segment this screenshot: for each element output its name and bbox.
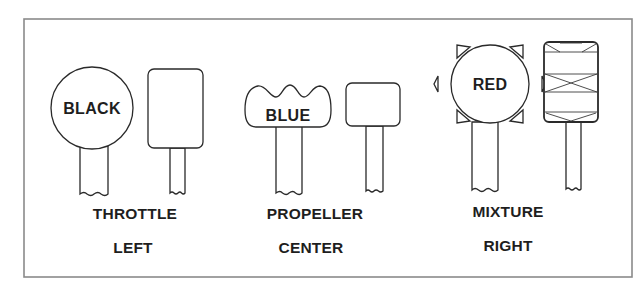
mixture-position-label: RIGHT [483, 237, 533, 254]
mixture-point-icon [434, 76, 438, 92]
throttle-rect-knob [148, 69, 203, 194]
throttle-knob-color-label: BLACK [63, 100, 121, 117]
mixture-knurled-knob-icon [544, 42, 598, 122]
propeller-group: BLUE PROPELLER CENTER [245, 83, 400, 256]
mixture-label: MIXTURE [472, 203, 543, 220]
throttle-position-label: LEFT [113, 239, 153, 256]
control-knob-diagram: BLACK THROTTLE LEFT BLUE PROPELLER CENTE… [0, 0, 637, 289]
mixture-knob-color-label: RED [473, 76, 508, 93]
mixture-rect-shaft-icon [566, 122, 581, 190]
propeller-rect-knob [346, 83, 400, 192]
mixture-group: RED MIXTURE [434, 42, 598, 254]
mixture-shaft-icon [472, 122, 498, 192]
throttle-rect-shaft-icon [170, 148, 185, 194]
propeller-shaft-icon [276, 126, 302, 195]
propeller-rect-knob-icon [346, 83, 400, 126]
throttle-round-knob: BLACK [51, 67, 133, 196]
propeller-label: PROPELLER [267, 205, 364, 222]
mixture-knurled-knob [544, 42, 598, 190]
throttle-group: BLACK THROTTLE LEFT [51, 67, 203, 256]
throttle-shaft-icon [80, 146, 108, 196]
propeller-knob-color-label: BLUE [266, 107, 311, 124]
throttle-rect-knob-icon [148, 69, 203, 148]
propeller-position-label: CENTER [279, 239, 344, 256]
mixture-spiked-knob: RED [434, 45, 546, 192]
propeller-wavy-knob: BLUE [245, 85, 331, 195]
throttle-label: THROTTLE [93, 205, 177, 222]
propeller-rect-shaft-icon [366, 126, 383, 192]
